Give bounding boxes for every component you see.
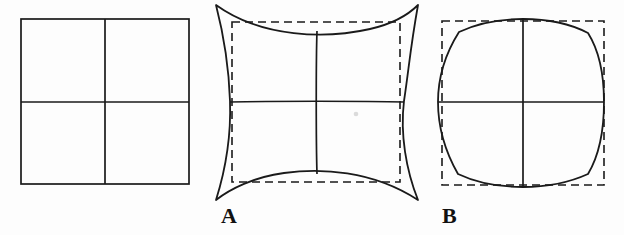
panel-reference-square — [21, 19, 189, 184]
panel-a-horizontal-gridline — [230, 101, 404, 102]
panel-a-label: A — [221, 205, 237, 227]
scan-artifact-speck — [354, 112, 359, 117]
panel-a-pincushion — [216, 5, 418, 200]
panel-b-distorted-outline — [438, 19, 604, 187]
panel-a-vertical-gridline — [316, 31, 317, 174]
panel-b-barrel — [438, 19, 604, 187]
panel-b-label: B — [442, 205, 457, 227]
figure-canvas: A B — [0, 0, 624, 235]
distortion-diagram-svg — [0, 0, 624, 235]
